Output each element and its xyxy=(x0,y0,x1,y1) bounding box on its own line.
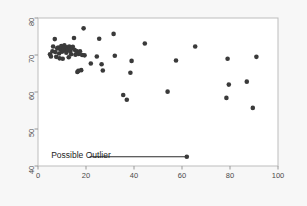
scatter-point xyxy=(245,79,250,84)
scatter-point xyxy=(113,53,118,58)
annotation-label: Possible Outlier xyxy=(51,151,111,160)
scatter-point xyxy=(49,54,54,59)
scatter-point xyxy=(101,68,106,73)
x-tick-label: 60 xyxy=(168,172,196,180)
x-tick-label: 20 xyxy=(72,172,100,180)
scatter-point xyxy=(89,61,94,66)
scatter-point xyxy=(251,106,256,111)
scatter-point xyxy=(193,44,198,49)
scatter-point xyxy=(53,37,58,42)
scatter-point xyxy=(69,52,74,57)
scatter-point xyxy=(174,58,179,63)
scatter-point xyxy=(99,62,104,67)
scatter-point xyxy=(125,97,130,102)
scatter-point xyxy=(121,93,126,98)
y-tick-label: 70 xyxy=(28,55,36,77)
x-tick-label: 80 xyxy=(216,172,244,180)
scatter-point xyxy=(60,56,65,61)
scatter-point xyxy=(82,53,87,58)
scatter-point xyxy=(72,36,77,41)
scatter-point xyxy=(185,154,190,159)
y-tick-label: 50 xyxy=(28,129,36,151)
y-tick-label: 60 xyxy=(28,92,36,114)
scatter-point xyxy=(165,89,170,94)
scatter-plot-figure: 020406080100 4050607080 Possible Outlier xyxy=(0,0,307,206)
scatter-point xyxy=(254,55,259,60)
y-tick-label: 80 xyxy=(28,18,36,40)
x-tick-label: 100 xyxy=(264,172,292,180)
scatter-point xyxy=(143,41,148,46)
x-tick-label: 40 xyxy=(120,172,148,180)
scatter-point xyxy=(224,96,229,101)
scatter-point xyxy=(97,36,102,41)
scatter-point xyxy=(227,82,232,87)
scatter-point xyxy=(111,32,116,37)
scatter-point xyxy=(95,54,100,59)
scatter-point xyxy=(128,70,133,75)
scatter-point xyxy=(129,59,134,64)
scatter-point xyxy=(225,56,230,61)
scatter-point xyxy=(51,44,56,49)
scatter-point xyxy=(79,68,84,73)
scatter-point xyxy=(81,26,86,31)
y-tick-label: 40 xyxy=(28,166,36,188)
